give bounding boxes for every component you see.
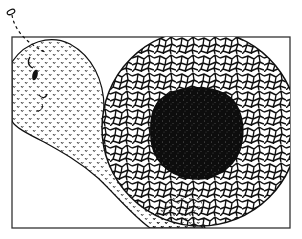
antenna-tip-icon bbox=[6, 8, 15, 15]
illustration-canvas bbox=[0, 0, 302, 239]
dark-core-blob bbox=[151, 88, 243, 179]
